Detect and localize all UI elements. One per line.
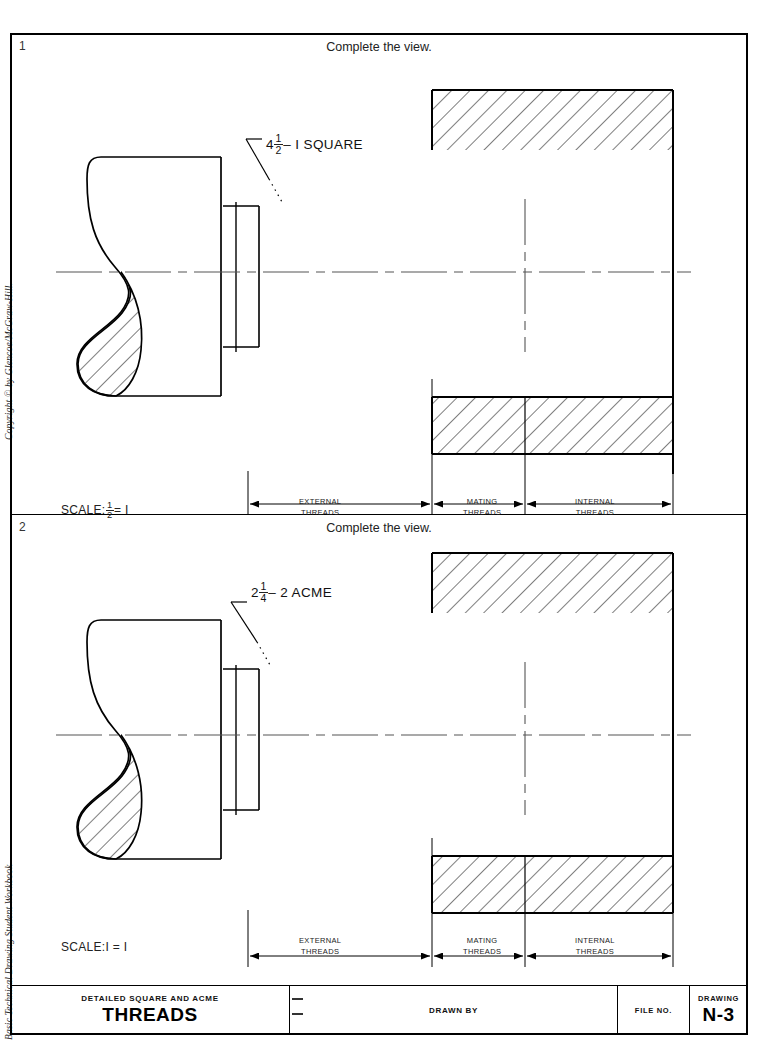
worksheet-sheet: Copyright © by Glencoe/McGraw-Hill. Basi… (0, 0, 758, 1048)
section-hatch-shaft (78, 735, 142, 859)
panel-2: 2 Complete the view. 214– 2 ACME SCALE:I… (11, 515, 747, 986)
drawn-by-tickmarks (292, 995, 310, 1025)
lower-hatch-block (432, 397, 673, 454)
shaft-collar (223, 665, 259, 815)
shaft-collar (223, 202, 259, 352)
subject-main: THREADS (102, 1004, 197, 1026)
title-block-subject: DETAILED SQUARE AND ACME THREADS (11, 986, 289, 1034)
title-block: DETAILED SQUARE AND ACME THREADS DRAWN B… (11, 986, 747, 1034)
upper-hatch-block (432, 553, 673, 613)
drawn-by-label: DRAWN BY (429, 1006, 478, 1015)
internal-thread-blocks (432, 90, 673, 474)
subject-sub: DETAILED SQUARE AND ACME (81, 994, 218, 1003)
callout-leader (246, 139, 282, 202)
callout-leader (231, 602, 270, 665)
center-line (56, 199, 691, 352)
external-shaft-view (77, 157, 221, 396)
panel-2-drawing (11, 515, 747, 986)
center-line (56, 662, 691, 815)
title-block-drawn-by[interactable]: DRAWN BY (289, 986, 617, 1034)
file-no-label: FILE NO. (635, 1006, 672, 1015)
upper-hatch-block (432, 90, 673, 150)
drawing-number: N-3 (702, 1004, 734, 1026)
title-block-drawing-no: DRAWING N-3 (689, 986, 747, 1034)
drawing-label: DRAWING (698, 994, 739, 1003)
external-shaft-view (77, 620, 221, 859)
internal-thread-blocks (432, 553, 673, 913)
panel-1-drawing (11, 34, 747, 515)
panel-1: 1 Complete the view. 412– I SQUARE SCALE… (11, 34, 747, 515)
section-hatch-shaft (78, 272, 142, 396)
title-block-file-no[interactable]: FILE NO. (617, 986, 689, 1034)
lower-hatch-block (432, 856, 673, 913)
